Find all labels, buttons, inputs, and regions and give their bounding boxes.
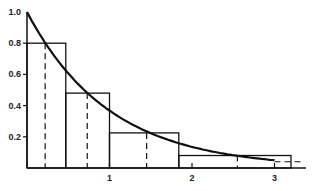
x-tick-label: 3 <box>272 173 277 183</box>
y-tick-label: 0.6 <box>8 69 21 79</box>
y-ticks: 0.20.40.60.81.0 <box>8 7 27 142</box>
x-tick-label: 1 <box>107 173 112 183</box>
y-tick-label: 1.0 <box>8 7 21 17</box>
y-tick-label: 0.2 <box>8 132 21 142</box>
y-tick-label: 0.8 <box>8 38 21 48</box>
step-rectangle <box>110 133 179 168</box>
axes <box>27 12 306 168</box>
x-ticks: 123 <box>107 163 277 183</box>
exponential-step-chart: 0.20.40.60.81.0 123 <box>0 0 314 191</box>
x-tick-label: 2 <box>189 173 194 183</box>
dashed-lines <box>45 43 303 168</box>
y-tick-label: 0.4 <box>8 101 21 111</box>
step-rectangles <box>27 43 291 168</box>
exponential-curve <box>27 12 275 160</box>
